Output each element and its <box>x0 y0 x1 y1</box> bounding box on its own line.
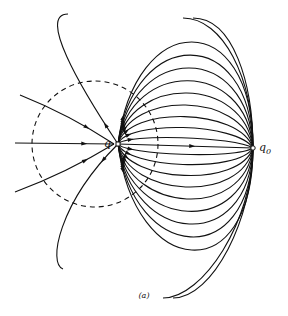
arrowhead-icon <box>83 124 90 130</box>
field-line <box>58 14 118 144</box>
field-line-diagram: q q0 (a) <box>0 0 288 316</box>
field-line <box>20 95 114 144</box>
charge-q-label: q <box>104 137 111 150</box>
field-line <box>15 144 114 192</box>
field-line <box>118 144 253 199</box>
field-line <box>118 144 253 224</box>
field-line <box>15 143 114 144</box>
field-line <box>118 117 253 148</box>
field-line <box>118 144 253 148</box>
arrowhead-icon <box>102 121 109 128</box>
charge-q0-label: q0 <box>259 141 271 156</box>
charge-q-marker <box>116 142 120 146</box>
arrowhead-icon <box>82 157 89 163</box>
field-line <box>57 144 118 269</box>
field-line <box>118 105 253 148</box>
arrowhead-icon <box>189 144 195 148</box>
figure-caption: (a) <box>138 291 149 300</box>
charge-q0-marker <box>251 146 255 150</box>
field-lines <box>15 14 253 298</box>
arrowhead-icon <box>81 142 87 146</box>
